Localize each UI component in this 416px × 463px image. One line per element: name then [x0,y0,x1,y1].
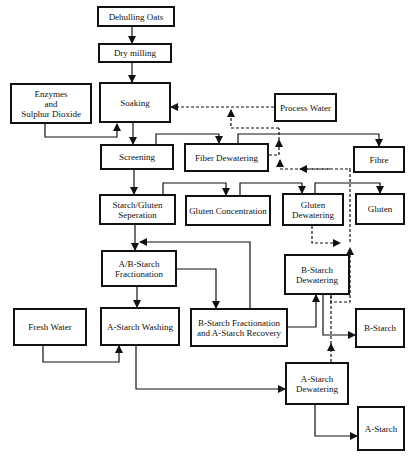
node-dehulling-oats: Dehulling Oats [97,6,175,27]
node-gluten-dewatering: Gluten Dewatering [282,193,344,226]
arrow-bstarchfrac-to-bstarchdewatering [288,295,316,327]
node-label: Process Water [280,103,331,113]
node-enzymes-sulphur-dioxide: Enzymes and Sulphur Dioxide [10,83,92,124]
connector-lines [0,0,416,463]
node-screening: Screening [100,144,174,170]
node-process-water: Process Water [274,93,337,122]
node-label: A-Starch [365,424,398,434]
node-label: A/B-Starch Fractionation [115,259,163,279]
node-label: Enzymes and Sulphur Dioxide [21,89,81,119]
node-label: Starch/Gluten Seperation [113,200,163,220]
node-label: Screening [119,152,155,162]
dashed-fiberdewatering-up [269,140,279,155]
node-label: Gluten Dewatering [292,200,334,220]
node-soaking: Soaking [99,82,171,123]
oat-starch-process-flowchart: Dehulling Oats Dry milling Enzymes and S… [0,0,416,463]
node-label: B-Starch Dewatering [296,265,338,285]
node-gluten-concentration: Gluten Concentration [185,195,271,226]
node-a-starch-washing: A-Starch Washing [100,307,180,346]
arrow-enzymes-to-soaking [45,124,117,137]
node-a-starch-dewatering: A-Starch Dewatering [285,362,349,405]
node-ab-starch-fractionation: A/B-Starch Fractionation [101,250,177,287]
node-label: Fibre [370,155,389,165]
node-label: Dehulling Oats [109,12,164,22]
arrow-astarchwashing-to-astarchdewatering [136,346,285,389]
dashed-recycle-to-soaking-line [231,110,279,128]
node-fresh-water: Fresh Water [13,308,87,346]
node-b-starch: B-Starch [355,308,405,348]
node-label: B-Starch Fractionation and A-Starch Reco… [197,318,281,338]
node-label: Gluten Concentration [189,206,267,216]
node-gluten: Gluten [355,193,405,225]
node-b-starch-dewatering: B-Starch Dewatering [284,254,350,295]
arrow-abstarch-to-bstarchfrac [177,269,216,308]
node-label: Dry milling [114,48,156,58]
node-dry-milling: Dry milling [98,43,172,63]
arrow-freshwater-to-astarchwashing [43,346,119,362]
node-fiber-dewatering: Fiber Dewatering [184,143,269,172]
node-starch-gluten-separation: Starch/Gluten Seperation [99,194,176,225]
node-label: Fiber Dewatering [195,153,258,163]
node-b-starch-fractionation-a-starch-recovery: B-Starch Fractionation and A-Starch Reco… [190,308,288,347]
arrow-astarchdewatering-to-astarch [315,405,357,436]
node-label: Fresh Water [28,322,71,332]
node-label: Gluten [368,204,393,214]
node-label: A-Starch Dewatering [296,374,338,394]
node-label: Soaking [120,98,150,108]
dashed-glutendewatering-water [312,226,340,243]
node-label: B-Starch [364,323,396,333]
node-label: A-Starch Washing [107,322,173,332]
arrow-glutendewatering-to-gluten [315,183,380,193]
node-fibre: Fibre [353,146,405,173]
node-a-starch: A-Starch [357,406,405,451]
